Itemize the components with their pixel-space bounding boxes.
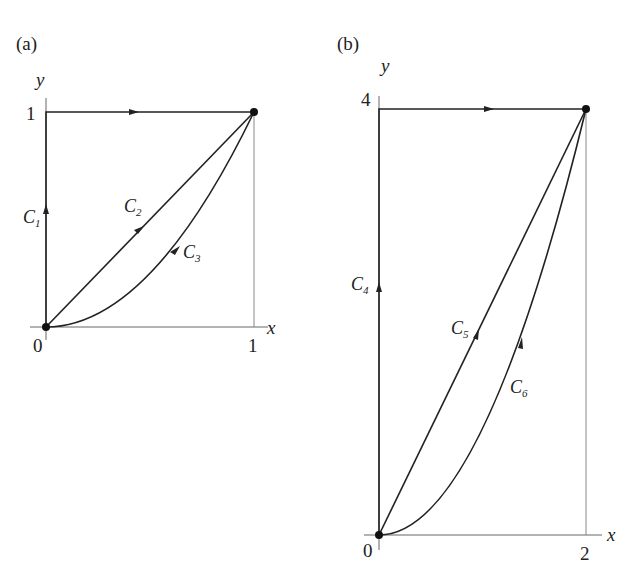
curve-c5: C5 — [379, 109, 586, 535]
arrow-right-icon — [129, 109, 139, 115]
line-integral-paths-figure: (a) y x 1 1 0 C1 C2 C3 — [0, 0, 636, 573]
panel-b-label: (b) — [337, 33, 359, 55]
arrow-diagonal-icon — [134, 226, 144, 234]
curve-c2: C2 — [46, 112, 254, 327]
panel-a-label: (a) — [16, 33, 37, 55]
panel-b-x-tick: 2 — [580, 543, 590, 564]
curve-c3-label: C3 — [183, 242, 201, 264]
curve-c4: C4 — [351, 106, 586, 535]
curve-c2-label: C2 — [124, 196, 142, 218]
arrow-up-icon — [43, 204, 49, 214]
panel-a-y-label: y — [34, 69, 45, 90]
panel-b-y-label: y — [379, 55, 390, 76]
panel-a-end-point — [250, 108, 258, 116]
curve-c6-label: C6 — [510, 377, 528, 399]
panel-a-origin-point — [42, 323, 50, 331]
panel-a-x-tick: 1 — [248, 335, 258, 356]
arrow-right-icon — [484, 106, 494, 112]
panel-b-y-tick: 4 — [361, 89, 371, 110]
curve-c1: C1 — [23, 109, 254, 327]
panel-b-origin-point — [375, 531, 383, 539]
panel-b-x-label: x — [606, 524, 616, 545]
panel-a-y-tick: 1 — [26, 103, 36, 124]
arrow-diagonal-icon — [170, 246, 180, 255]
panel-b-origin-label: 0 — [363, 540, 373, 561]
panel-a: (a) y x 1 1 0 C1 C2 C3 — [16, 33, 276, 356]
panel-a-x-label: x — [266, 317, 276, 338]
curve-c5-label: C5 — [451, 318, 469, 340]
panel-b-end-point — [582, 105, 590, 113]
arrow-diagonal-icon — [473, 329, 479, 340]
curve-c4-label: C4 — [351, 274, 369, 296]
panel-b: (b) y x 4 2 0 C4 C5 C6 — [337, 33, 616, 564]
panel-a-origin-label: 0 — [33, 335, 43, 356]
curve-c1-label: C1 — [23, 207, 41, 229]
arrow-up-icon — [376, 282, 382, 292]
